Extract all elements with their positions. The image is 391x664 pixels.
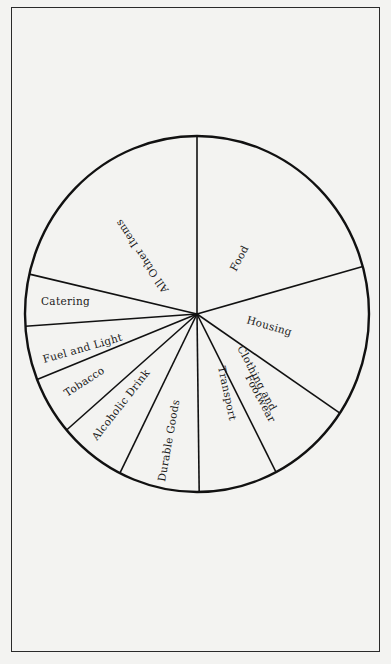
- label-food: Food: [227, 243, 250, 273]
- label-durable-goods: Durable Goods: [155, 398, 181, 482]
- label-tobacco: Tobacco: [62, 364, 107, 399]
- chart-page: Food Housing Clothing and Footwear Trans…: [0, 0, 391, 664]
- label-fuel-and-light: Fuel and Light: [41, 331, 124, 365]
- slice-divider-housing: [197, 267, 363, 315]
- label-all-other-items: All Other Items: [112, 217, 171, 296]
- label-catering: Catering: [41, 295, 90, 307]
- slice-divider-durable-goods: [197, 314, 199, 492]
- pie-slices: [25, 136, 362, 492]
- label-housing: Housing: [245, 313, 293, 337]
- pie-chart: Food Housing Clothing and Footwear Trans…: [0, 0, 391, 664]
